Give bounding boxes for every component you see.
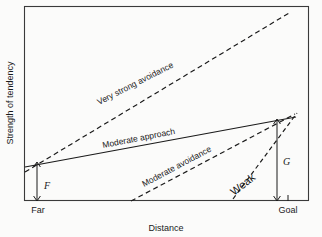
y-axis-label: Strength of tendency — [5, 61, 15, 145]
annotation-label-f: F — [43, 180, 51, 191]
chart-background — [0, 0, 322, 237]
annotation-label-g: G — [283, 156, 290, 167]
x-tick-label-goal: Goal — [278, 205, 297, 215]
conflict-gradient-chart: Strength of tendency Distance Far Goal V… — [0, 0, 322, 237]
x-axis-label: Distance — [148, 223, 183, 233]
x-tick-label-far: Far — [31, 205, 45, 215]
